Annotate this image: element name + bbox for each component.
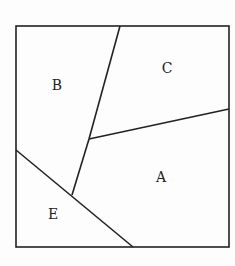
region-label-a: A	[155, 169, 167, 185]
b-a-divider	[72, 139, 89, 195]
region-diagram: A B C E	[0, 0, 235, 266]
region-label-c: C	[162, 60, 173, 76]
c-a-divider	[89, 109, 229, 139]
region-label-b: B	[52, 77, 62, 93]
b-c-divider	[89, 26, 120, 139]
region-label-e: E	[48, 206, 58, 222]
e-divider	[16, 150, 133, 247]
